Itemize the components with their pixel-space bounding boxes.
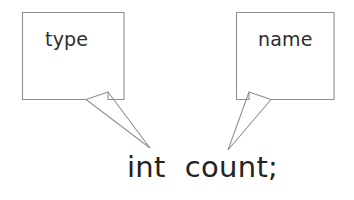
name-callout-label: name [258,30,313,49]
name-callout-box [237,13,335,100]
type-callout-tail-left-edge [86,100,150,149]
diagram-canvas: type name int count; [0,0,354,200]
type-callout-box [23,13,125,100]
type-callout-label: type [45,30,88,49]
name-callout-tail-left-edge [228,92,249,150]
name-callout-tail-right-edge [228,100,271,151]
code-declaration-text: int count; [127,153,278,182]
type-callout-tail-right-edge [108,92,150,148]
